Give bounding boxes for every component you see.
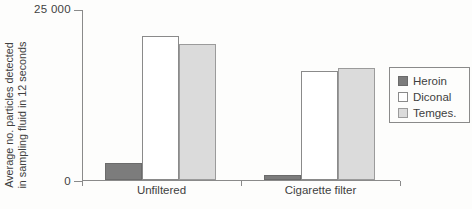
x-tick-right-mark xyxy=(400,181,401,186)
bar-cigarette-filter-heroin xyxy=(264,175,301,180)
legend-box: Heroin Diconal Temges. xyxy=(389,67,470,123)
x-category-label-unfiltered: Unfiltered xyxy=(82,184,241,196)
y-axis-title-line1: Average no. particles detected xyxy=(3,30,16,200)
bar-chart-figure: Average no. particles detected in sampli… xyxy=(0,0,472,209)
y-tick-label-max: 25 000 xyxy=(19,3,71,15)
plot-area xyxy=(82,10,400,181)
bar-cigarette-filter-temges xyxy=(338,68,375,180)
legend-swatch-temges xyxy=(398,108,408,118)
y-tick-zero-mark xyxy=(74,181,82,182)
legend-item-diconal: Diconal xyxy=(398,89,469,104)
legend-label-heroin: Heroin xyxy=(413,75,447,87)
legend-swatch-diconal xyxy=(398,92,408,102)
x-category-label-cigarette-filter: Cigarette filter xyxy=(241,184,400,196)
legend-label-diconal: Diconal xyxy=(413,91,451,103)
y-tick-label-zero: 0 xyxy=(19,175,71,187)
bar-unfiltered-heroin xyxy=(105,163,142,180)
bar-unfiltered-temges xyxy=(179,44,216,180)
legend-item-heroin: Heroin xyxy=(398,73,469,88)
bar-group-cigarette-filter xyxy=(264,68,375,180)
legend-item-temges: Temges. xyxy=(398,105,469,120)
bar-unfiltered-diconal xyxy=(142,36,179,180)
y-tick-max-mark xyxy=(74,10,82,11)
legend-label-temges: Temges. xyxy=(413,107,456,119)
legend-swatch-heroin xyxy=(398,76,408,86)
bar-cigarette-filter-diconal xyxy=(301,71,338,180)
bar-group-unfiltered xyxy=(105,36,216,180)
